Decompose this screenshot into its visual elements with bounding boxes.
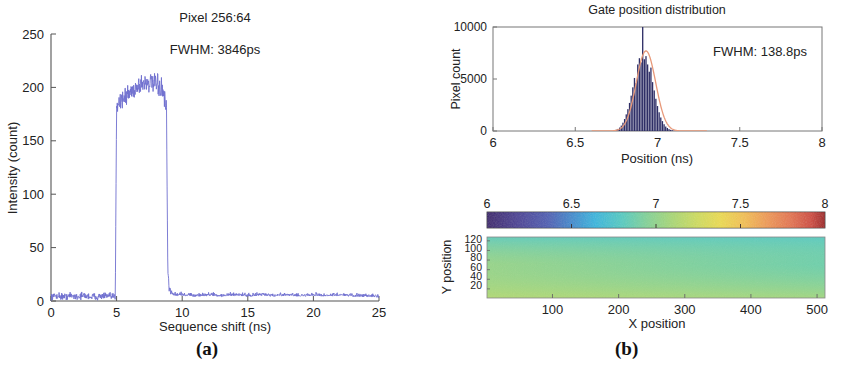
panel-b-figure: Gate position distribution 0500010000 66… (420, 0, 843, 371)
panel-a-svg: Pixel 256:64 FWHM: 3846ps 05010015020025… (0, 0, 420, 371)
histogram-bar (670, 130, 671, 131)
panel-a-y-axis-label: Intensity (count) (5, 122, 20, 215)
histogram-bar (668, 129, 669, 131)
histogram-bar (645, 56, 646, 131)
panel-a-y-tick-label: 200 (22, 80, 44, 95)
histogram-bar (650, 68, 651, 131)
figure-caption-b: (b) (615, 338, 638, 360)
colorbar-tick-label: 6 (484, 197, 491, 211)
histogram-bar (635, 83, 636, 131)
histogram-bar (660, 117, 661, 131)
position-map-x-tick-label: 500 (806, 302, 828, 317)
panel-b-histogram-y-tick-label: 10000 (454, 20, 488, 34)
position-map-y-axis-label: Y position (440, 240, 454, 295)
panel-a-y-tick-label: 0 (37, 294, 44, 309)
panel-a-y-tick-label: 50 (30, 240, 44, 255)
colorbar-tick-group: 66.577.58 (484, 197, 829, 211)
panel-b-histogram-title: Gate position distribution (588, 3, 726, 17)
panel-a-x-tick-group: 0510152025 (47, 296, 386, 320)
panel-b-histogram-x-tick-label: 7.5 (731, 135, 749, 150)
panel-b-histogram-x-axis-label: Position (ns) (621, 151, 693, 166)
panel-a-intensity-trace (51, 73, 379, 300)
panel-b-histogram-x-tick-label: 7 (654, 135, 661, 150)
histogram-bar (632, 87, 633, 131)
histogram-bar (640, 62, 641, 131)
panel-a-figure: Pixel 256:64 FWHM: 3846ps 05010015020025… (0, 0, 420, 371)
histogram-bar (662, 121, 663, 131)
panel-a-x-axis-label: Sequence shift (ns) (159, 319, 271, 334)
panel-b-fwhm-annotation: FWHM: 138.8ps (713, 44, 807, 59)
panel-b-histogram-y-tick-label: 0 (480, 124, 487, 138)
histogram-bar (672, 130, 673, 131)
histogram-bar (655, 99, 656, 131)
colorbar-tick-label: 7.5 (732, 197, 749, 211)
panel-a-y-tick-label: 250 (22, 27, 44, 42)
figure-caption-a: (a) (196, 338, 218, 360)
position-map-noise (487, 237, 825, 298)
panel-a-x-tick-label: 5 (113, 305, 120, 320)
panel-b-histogram-x-tick-label: 6 (489, 135, 496, 150)
position-map-x-tick-label: 200 (608, 302, 630, 317)
histogram-bar (642, 27, 643, 131)
histogram-bar (629, 103, 630, 131)
histogram-bar (647, 64, 648, 131)
panel-a-x-tick-label: 0 (47, 305, 54, 320)
position-map-x-tick-label: 300 (674, 302, 696, 317)
histogram-bar (644, 59, 645, 131)
panel-b-histogram-y-tick-label: 5000 (460, 72, 487, 86)
histogram-bar (654, 90, 655, 131)
panel-a-fwhm-annotation: FWHM: 3846ps (170, 42, 261, 57)
panel-a-x-tick-label: 15 (241, 305, 255, 320)
position-map-x-axis-label: X position (628, 316, 685, 331)
position-map-y-tick-label: 20 (470, 279, 482, 291)
panel-b-histogram-y-axis-label: Pixel count (449, 48, 463, 110)
histogram-bar (667, 128, 668, 131)
panel-a-title: Pixel 256:64 (179, 10, 251, 25)
position-map-x-tick-label: 100 (542, 302, 564, 317)
panel-a-x-tick-label: 25 (372, 305, 386, 320)
histogram-bar (631, 96, 632, 131)
colorbar-tick-label: 8 (822, 197, 829, 211)
histogram-bar (627, 109, 628, 131)
panel-b-histogram-x-tick-label: 6.5 (566, 135, 584, 150)
histogram-bar (665, 127, 666, 131)
colorbar-tick-label: 7 (653, 197, 660, 211)
panel-a-y-tick-label: 150 (22, 133, 44, 148)
panel-a-x-tick-label: 10 (175, 305, 189, 320)
position-map-y-tick-group: 12010080604020 (464, 233, 490, 291)
panel-a-x-tick-label: 20 (306, 305, 320, 320)
histogram-bar (652, 82, 653, 131)
panel-b-svg: Gate position distribution 0500010000 66… (420, 0, 843, 371)
panel-b-histogram-x-tick-label: 8 (818, 135, 825, 150)
histogram-bar (657, 106, 658, 131)
histogram-bar (663, 124, 664, 131)
histogram-bar (658, 112, 659, 131)
panel-a-y-tick-label: 100 (22, 187, 44, 202)
histogram-bar (649, 72, 650, 131)
colorbar-tick-label: 6.5 (563, 197, 580, 211)
position-map-x-tick-label: 400 (740, 302, 762, 317)
